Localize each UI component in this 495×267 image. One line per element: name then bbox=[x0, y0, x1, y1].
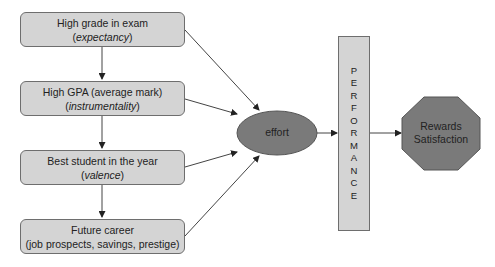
performance-letter: E bbox=[351, 77, 357, 90]
reward-label: Rewards Satisfaction bbox=[402, 120, 480, 146]
box-subtitle: (expectancy) bbox=[72, 30, 132, 44]
box-instrumentality: High GPA (average mark) (instrumentality… bbox=[20, 81, 185, 116]
performance-letter: E bbox=[351, 190, 357, 203]
box-subtitle: (job prospects, savings, prestige) bbox=[25, 237, 179, 251]
performance-letter: O bbox=[350, 115, 357, 128]
box-title: High grade in exam bbox=[57, 16, 148, 30]
box-expectancy: High grade in exam (expectancy) bbox=[20, 12, 185, 47]
performance-letter: A bbox=[351, 152, 357, 165]
arrow-box3-to-effort bbox=[185, 152, 237, 167]
box-title: Best student in the year bbox=[47, 154, 157, 168]
performance-letter: P bbox=[351, 65, 357, 78]
performance-letter: N bbox=[351, 165, 358, 178]
performance-letter: R bbox=[351, 127, 358, 140]
box-subtitle: (valence) bbox=[81, 168, 124, 182]
arrow-box1-to-effort bbox=[185, 30, 259, 110]
box-title: High GPA (average mark) bbox=[43, 85, 162, 99]
reward-line-2: Satisfaction bbox=[402, 133, 480, 146]
box-valence: Best student in the year (valence) bbox=[20, 150, 185, 185]
performance-letter: C bbox=[351, 177, 358, 190]
performance-letter: M bbox=[350, 140, 358, 153]
performance-node: P E R F O R M A N C E bbox=[338, 36, 370, 231]
box-subtitle: (instrumentality) bbox=[65, 99, 140, 113]
arrow-box4-to-effort bbox=[185, 156, 259, 236]
box-future-career: Future career (job prospects, savings, p… bbox=[20, 219, 185, 254]
arrow-box2-to-effort bbox=[185, 99, 237, 114]
performance-letter: F bbox=[351, 102, 357, 115]
box-title: Future career bbox=[71, 223, 134, 237]
performance-letter: R bbox=[351, 90, 358, 103]
effort-label: effort bbox=[237, 126, 317, 138]
reward-line-1: Rewards bbox=[402, 120, 480, 133]
